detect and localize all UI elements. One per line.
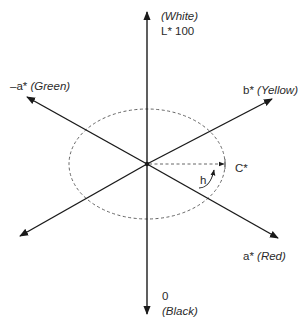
origin-dot [145, 162, 149, 166]
a-axis-green-arrow [27, 97, 147, 164]
yellow-axis-label: b* (Yellow) [243, 84, 298, 97]
red-axis-symbol: a* [243, 250, 254, 262]
black-value-label: 0 [162, 290, 168, 303]
cielab-diagram [0, 0, 302, 326]
yellow-axis-note: (Yellow) [257, 84, 298, 96]
red-axis-label: a* (Red) [243, 250, 286, 263]
red-axis-note: (Red) [257, 250, 286, 262]
b-axis-blue-arrow [20, 164, 147, 236]
green-axis-note: (Green) [30, 80, 70, 92]
b-axis-yellow-arrow [147, 99, 272, 164]
black-label: (Black) [162, 305, 198, 318]
white-label: (White) [161, 10, 198, 23]
green-axis-label: –a* (Green) [10, 80, 70, 93]
green-axis-symbol: –a* [10, 80, 27, 92]
hue-label: h [200, 174, 206, 187]
l-axis-label: L* 100 [161, 25, 194, 38]
chroma-label: C* [235, 162, 248, 175]
yellow-axis-symbol: b* [243, 84, 254, 96]
